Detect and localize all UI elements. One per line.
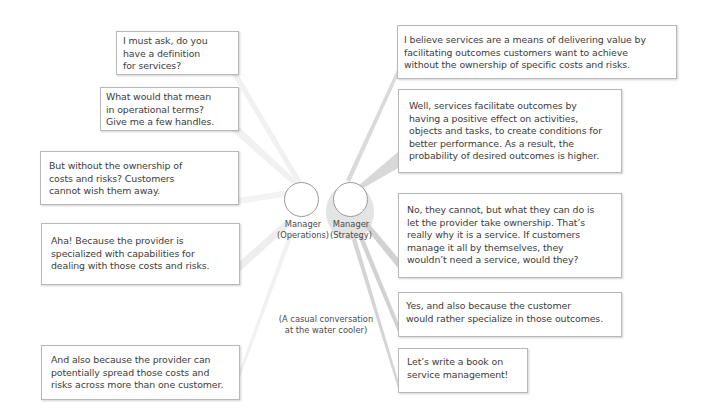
bubble-strategy-4: Yes, and also because the customer would… — [398, 292, 622, 337]
bubble-strategy-2: Well, services facilitate outcomes by ha… — [398, 89, 622, 173]
bubble-operations-5: And also because the provider can potent… — [41, 345, 240, 400]
label-manager-strategy: Manager (Strategy) — [324, 219, 378, 241]
beam-strat-2 — [358, 152, 398, 190]
bubble-strategy-5: Let’s write a book on service management… — [398, 348, 528, 393]
avatar-manager-strategy — [333, 182, 368, 217]
bubble-operations-3: But without the ownership of costs and r… — [40, 151, 239, 205]
bubble-operations-2: What would that mean in operational term… — [100, 87, 239, 131]
caption-water-cooler: (A casual conversation at the water cool… — [268, 314, 384, 336]
beam-ops-2 — [232, 126, 298, 184]
beam-ops-5 — [239, 230, 294, 380]
bubble-operations-4: Aha! Because the provider is specialized… — [41, 223, 240, 285]
beam-ops-1 — [232, 74, 302, 182]
avatar-manager-operations — [284, 182, 319, 217]
bubble-strategy-3: No, they cannot, but what they can do is… — [398, 193, 622, 278]
bubble-strategy-1: I believe services are a means of delive… — [397, 25, 677, 79]
conversation-diagram: I must ask, do you have a definition for… — [0, 0, 711, 419]
beam-ops-3 — [238, 190, 290, 204]
bubble-operations-1: I must ask, do you have a definition for… — [116, 31, 239, 75]
